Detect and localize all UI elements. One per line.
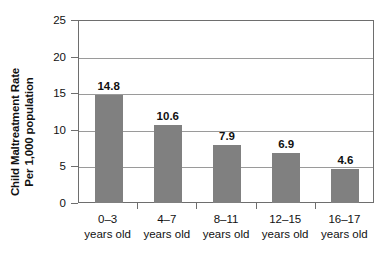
- bar: [213, 145, 241, 203]
- y-axis-tick-label: 10: [40, 124, 66, 136]
- x-axis-category-label: 8–11years old: [203, 212, 250, 242]
- bar-chart: Child Maltreatment Rate Per 1,000 popula…: [0, 0, 388, 264]
- x-axis-category-label: 16–17years old: [321, 212, 368, 242]
- bar: [95, 95, 123, 203]
- x-axis-category-unit: years old: [321, 227, 368, 242]
- y-axis-tick-mark: [71, 93, 78, 94]
- x-axis-category-unit: years old: [262, 227, 309, 242]
- y-axis-tick-mark: [71, 203, 78, 204]
- x-axis-category-age: 0–3: [84, 212, 131, 227]
- x-axis-category-unit: years old: [203, 227, 250, 242]
- y-axis-title-line-2: Per 1,000 population: [22, 77, 36, 186]
- x-axis-category-label: 4–7years old: [143, 212, 190, 242]
- x-axis-tick-mark: [196, 203, 197, 209]
- bar-value-label: 4.6: [337, 154, 353, 166]
- bar-value-label: 6.9: [278, 138, 294, 150]
- bar: [272, 153, 300, 204]
- x-axis-category-unit: years old: [84, 227, 131, 242]
- x-axis-category-age: 12–15: [262, 212, 309, 227]
- bar-value-label: 7.9: [219, 130, 235, 142]
- x-axis-tick-mark: [315, 203, 316, 209]
- y-axis-tick-label: 5: [40, 160, 66, 172]
- bars-layer: 14.810.67.96.94.6: [79, 20, 373, 203]
- y-axis-tick-mark: [71, 20, 78, 21]
- x-axis-tick-mark: [137, 203, 138, 209]
- x-axis-category-age: 4–7: [143, 212, 190, 227]
- y-axis-tick-mark: [71, 166, 78, 167]
- bar-value-label: 10.6: [157, 110, 179, 122]
- bar-slot: 6.9: [257, 20, 316, 203]
- y-axis-tick-label: 25: [40, 14, 66, 26]
- y-axis-tick-label: 15: [40, 87, 66, 99]
- bar-slot: 7.9: [197, 20, 256, 203]
- x-axis-category-age: 8–11: [203, 212, 250, 227]
- x-axis-tick-mark: [256, 203, 257, 209]
- y-axis-tick-mark: [71, 130, 78, 131]
- x-axis-category-age: 16–17: [321, 212, 368, 227]
- x-axis-category-label: 12–15years old: [262, 212, 309, 242]
- y-axis-title-line-1: Child Maltreatment Rate: [8, 68, 22, 196]
- y-axis-tick-mark: [71, 57, 78, 58]
- bar: [331, 169, 359, 203]
- x-axis-category-label: 0–3years old: [84, 212, 131, 242]
- bar-slot: 14.8: [79, 20, 138, 203]
- bar-slot: 4.6: [316, 20, 375, 203]
- y-axis-tick-label: 0: [40, 197, 66, 209]
- y-axis-title: Child Maltreatment Rate Per 1,000 popula…: [0, 0, 44, 264]
- bar-value-label: 14.8: [97, 80, 119, 92]
- y-axis-tick-label: 20: [40, 51, 66, 63]
- bar: [154, 125, 182, 203]
- bar-slot: 10.6: [138, 20, 197, 203]
- x-axis-category-unit: years old: [143, 227, 190, 242]
